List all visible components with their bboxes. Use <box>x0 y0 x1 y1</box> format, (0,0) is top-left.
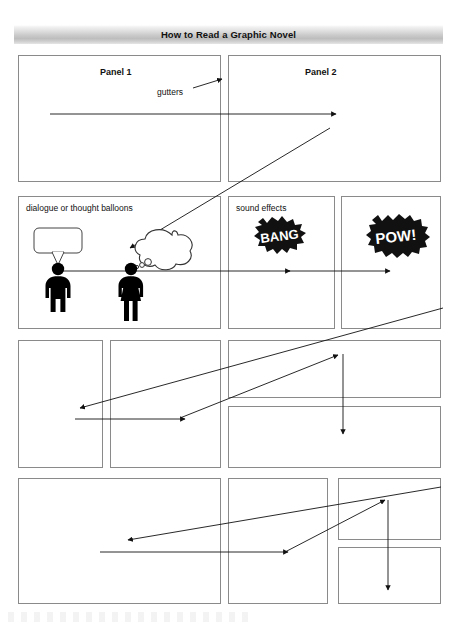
page-title-banner: How to Read a Graphic Novel <box>14 25 443 44</box>
panel-r4c1 <box>18 478 221 604</box>
sound-effects-label: sound effects <box>236 203 286 213</box>
panel-r2c3 <box>341 196 441 329</box>
panel-1-label: Panel 1 <box>100 67 132 77</box>
panel-2-label: Panel 2 <box>305 67 337 77</box>
panel-r3c2 <box>110 340 221 468</box>
panel-r2c2 <box>228 196 335 329</box>
panel-r4c3 <box>338 478 441 540</box>
panel-r3c3 <box>228 340 441 398</box>
panel-r4c4 <box>338 547 441 604</box>
balloons-label: dialogue or thought balloons <box>26 203 133 213</box>
panel-r3c1 <box>18 340 103 468</box>
gutters-label: gutters <box>157 87 183 97</box>
panel-r2c1 <box>18 196 221 329</box>
page-footer-smudge <box>8 612 248 622</box>
page-title: How to Read a Graphic Novel <box>161 29 296 40</box>
panel-r4c2 <box>228 478 328 604</box>
graphic-novel-reading-diagram: How to Read a Graphic Novel Panel 1 Pane… <box>0 0 457 632</box>
panel-r3c4 <box>228 406 441 468</box>
